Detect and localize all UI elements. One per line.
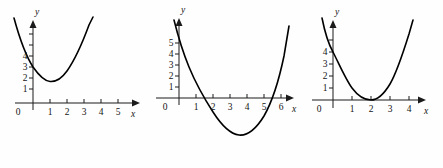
x-tick-label: 3 — [228, 102, 233, 112]
y-tick-label: 4 — [169, 49, 174, 59]
x-tick-label: 3 — [388, 104, 393, 114]
y-tick-label: 2 — [323, 71, 328, 81]
parabola-curve-2 — [174, 20, 289, 135]
figure-three-parabolas: 0 1 2 3 4 5 1 2 3 4 x y — [0, 0, 443, 168]
y-axis-arrow-icon — [30, 20, 37, 28]
y-tick-label: 2 — [169, 71, 174, 81]
y-tick-label: 4 — [23, 51, 28, 61]
parabola-graph-2: 0 1 2 3 4 5 6 1 2 3 4 5 x y — [148, 0, 300, 168]
x-tick-label: 6 — [279, 102, 284, 112]
x-tick-label: 4 — [99, 107, 104, 117]
x-tick-label: 4 — [407, 104, 412, 114]
parabola-graph-1: 0 1 2 3 4 5 1 2 3 4 x y — [0, 0, 148, 168]
y-ticks-group-2 — [175, 43, 179, 87]
y-axis-label: y — [34, 7, 40, 17]
origin-label-3: 0 — [317, 104, 322, 114]
parabola-curve-3 — [322, 18, 413, 100]
x-tick-label: 3 — [82, 107, 87, 117]
y-tick-label: 3 — [23, 62, 28, 72]
x-tick-label: 1 — [350, 104, 355, 114]
parabola-panel-3: 0 1 2 3 4 1 2 3 4 x y — [300, 0, 443, 168]
y-tick-label: 2 — [23, 73, 28, 83]
x-tick-label: 1 — [194, 102, 199, 112]
origin-label-1: 0 — [16, 107, 21, 117]
x-tick-label: 2 — [369, 104, 374, 114]
parabola-panel-2: 0 1 2 3 4 5 6 1 2 3 4 5 x y — [148, 0, 300, 168]
y-axis-label: y — [334, 7, 340, 17]
y-tick-label: 1 — [23, 84, 28, 94]
y-tick-label: 3 — [169, 60, 174, 70]
x-tick-label: 2 — [65, 107, 70, 117]
x-axis-label: x — [291, 104, 297, 114]
x-tick-label: 4 — [245, 102, 250, 112]
y-axis-arrow-icon — [176, 18, 183, 26]
y-tick-label: 1 — [169, 82, 174, 92]
y-tick-label: 1 — [323, 83, 328, 93]
y-axis-label: y — [180, 5, 186, 15]
x-tick-label: 2 — [211, 102, 216, 112]
x-tick-label: 1 — [48, 107, 53, 117]
x-tick-label: 5 — [262, 102, 267, 112]
x-axis-label: x — [423, 106, 429, 116]
x-axis-arrow-icon — [286, 95, 294, 102]
parabola-panel-1: 0 1 2 3 4 5 1 2 3 4 x y — [0, 0, 148, 168]
y-tick-label: 4 — [323, 47, 328, 57]
x-ticks-group-2 — [196, 94, 281, 98]
axes-group-1 — [15, 20, 140, 110]
y-axis-arrow-icon — [330, 20, 337, 28]
y-tick-label: 3 — [323, 59, 328, 69]
x-axis-label: x — [130, 109, 136, 119]
x-tick-label: 5 — [116, 107, 121, 117]
origin-label-2: 0 — [163, 102, 168, 112]
x-ticks-group-1 — [50, 99, 118, 103]
parabola-graph-3: 0 1 2 3 4 1 2 3 4 x y — [300, 0, 443, 168]
x-axis-arrow-icon — [132, 100, 140, 107]
y-tick-label: 5 — [169, 38, 174, 48]
x-axis-arrow-icon — [418, 97, 426, 104]
